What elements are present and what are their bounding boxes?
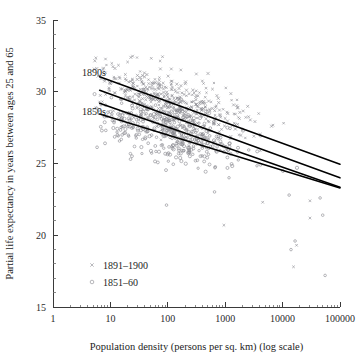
data-point-1891-1900: [95, 57, 98, 60]
data-point-1891-1900: [147, 79, 149, 81]
data-point-1851-60: [119, 129, 122, 132]
data-point-1851-60: [189, 119, 192, 122]
data-point-1851-60: [228, 177, 231, 180]
data-point-1851-60: [135, 137, 138, 140]
data-point-1891-1900: [124, 94, 127, 97]
data-point-1891-1900: [217, 97, 220, 100]
data-point-1891-1900: [224, 117, 227, 120]
data-point-1891-1900: [139, 70, 141, 72]
data-point-1851-60: [324, 274, 327, 277]
data-point-1851-60: [174, 156, 177, 159]
data-point-1891-1900: [258, 112, 260, 114]
data-point-1851-60: [157, 150, 160, 153]
data-point-1891-1900: [195, 103, 198, 106]
data-point-1891-1900: [232, 103, 235, 106]
data-point-1851-60: [199, 155, 202, 158]
data-point-1851-60: [203, 122, 206, 125]
x-tick-label: 10000: [270, 313, 295, 324]
data-point-1891-1900: [134, 93, 137, 96]
data-point-1891-1900: [150, 57, 152, 59]
data-point-1891-1900: [180, 84, 183, 87]
data-point-1851-60: [131, 155, 134, 158]
data-point-1891-1900: [196, 117, 198, 119]
data-point-1891-1900: [136, 74, 139, 77]
data-point-1891-1900: [309, 217, 312, 220]
legend-label: 1851–60: [103, 277, 138, 288]
data-point-1891-1900: [194, 96, 197, 99]
data-point-1851-60: [188, 136, 191, 139]
data-point-1851-60: [100, 129, 103, 132]
data-point-1891-1900: [126, 61, 129, 64]
data-point-1891-1900: [160, 139, 162, 141]
data-point-1891-1900: [174, 90, 176, 92]
data-point-1851-60: [118, 140, 121, 143]
data-point-1891-1900: [236, 99, 238, 101]
data-point-1851-60: [237, 159, 239, 161]
axes-layer: [53, 20, 340, 307]
data-point-1891-1900: [204, 105, 207, 108]
legend-item: 1851–60: [90, 277, 138, 288]
data-point-1891-1900: [225, 87, 227, 89]
data-point-1891-1900: [124, 73, 127, 76]
data-point-1851-60: [154, 104, 157, 107]
data-point-1851-60: [230, 163, 233, 166]
data-point-1891-1900: [261, 201, 264, 204]
data-point-1851-60: [165, 204, 168, 207]
data-point-1891-1900: [191, 94, 193, 96]
data-point-1891-1900: [114, 77, 117, 80]
data-point-1891-1900: [167, 75, 170, 78]
data-point-1851-60: [295, 166, 298, 169]
data-point-1851-60: [165, 169, 168, 172]
data-point-1851-60: [131, 107, 134, 110]
data-point-1891-1900: [132, 96, 134, 98]
data-point-1891-1900: [129, 56, 132, 59]
data-point-1851-60: [256, 150, 259, 153]
data-point-1891-1900: [196, 109, 198, 111]
data-point-1891-1900: [198, 102, 201, 105]
data-point-1891-1900: [204, 96, 207, 99]
data-point-1851-60: [294, 240, 297, 243]
data-point-1891-1900: [162, 82, 165, 85]
data-point-1891-1900: [223, 125, 226, 128]
data-point-1851-60: [204, 170, 207, 173]
data-point-1891-1900: [215, 94, 218, 97]
data-point-1851-60: [93, 93, 96, 96]
data-point-1851-60: [147, 142, 150, 145]
data-point-1891-1900: [201, 80, 203, 82]
data-point-1891-1900: [160, 92, 163, 95]
data-point-1851-60: [153, 127, 156, 130]
data-point-1851-60: [203, 160, 206, 163]
data-point-1891-1900: [217, 101, 220, 104]
x-axis-title: Population density (persons per sq. km) …: [90, 341, 304, 353]
data-point-1851-60: [116, 131, 118, 133]
data-point-1851-60: [172, 163, 175, 166]
data-point-1851-60: [199, 116, 202, 119]
data-point-1851-60: [104, 129, 107, 132]
data-point-1891-1900: [222, 108, 224, 110]
data-point-1851-60: [226, 166, 229, 169]
data-point-1851-60: [179, 156, 182, 159]
data-point-1851-60: [154, 160, 157, 163]
y-axis-title: Partial life expectancy in years between…: [4, 47, 15, 279]
data-point-1891-1900: [292, 266, 295, 269]
data-point-1891-1900: [244, 137, 246, 139]
data-point-1851-60: [188, 155, 191, 158]
data-point-1851-60: [131, 104, 134, 107]
data-point-1891-1900: [245, 116, 247, 118]
data-point-1891-1900: [158, 79, 161, 82]
x-tick-label: 1000: [215, 313, 235, 324]
data-point-1891-1900: [145, 73, 148, 76]
data-point-1891-1900: [158, 104, 160, 106]
data-point-1891-1900: [213, 82, 215, 84]
data-point-1891-1900: [205, 92, 207, 94]
data-point-1851-60: [179, 152, 182, 155]
data-point-1851-60: [208, 135, 211, 138]
x-tick-label: 100000: [325, 313, 355, 324]
data-point-1891-1900: [139, 88, 141, 90]
data-point-1891-1900: [153, 81, 156, 84]
data-point-1891-1900: [104, 58, 106, 60]
data-points-layer: [93, 55, 326, 277]
data-point-1851-60: [120, 102, 123, 105]
chart-figure: 3530252015110100100010000100000Populatio…: [0, 0, 361, 360]
data-point-1891-1900: [141, 97, 144, 100]
